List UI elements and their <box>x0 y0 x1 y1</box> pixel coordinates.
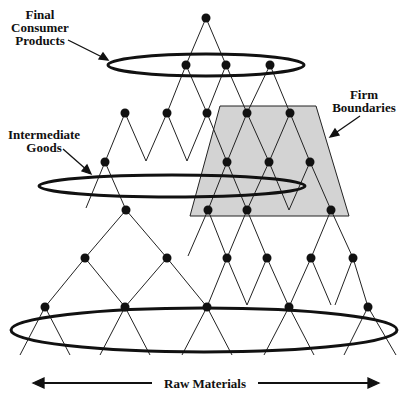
supply-chain-diagram: Final Consumer Products Firm Boundaries … <box>0 0 408 399</box>
firm-boundaries-arrowhead-icon <box>330 129 339 137</box>
left-arrowhead-icon <box>33 378 44 388</box>
final-products-arrow <box>68 40 104 58</box>
final-products-arrowhead-icon <box>99 53 108 60</box>
firm-boundaries-arrow <box>334 116 360 134</box>
raw-materials-label: Raw Materials <box>164 376 246 391</box>
final-goods-ring <box>108 54 304 76</box>
raw-materials-ring <box>11 308 397 352</box>
final-consumer-products-label-3: Products <box>15 33 65 48</box>
intermediate-goods-label-2: Goods <box>26 140 61 155</box>
firm-boundaries-label-2: Boundaries <box>332 100 396 115</box>
right-arrowhead-icon <box>368 378 379 388</box>
